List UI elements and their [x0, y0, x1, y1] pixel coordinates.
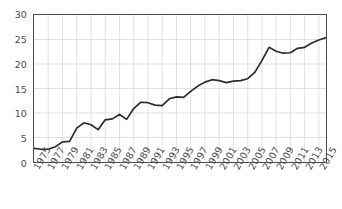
line-chart: 051015202530 197519771979198119831985198…	[0, 0, 342, 209]
y-tick-label: 20	[0, 58, 27, 69]
y-tick-label: 15	[0, 83, 27, 94]
y-tick-label: 5	[0, 133, 27, 144]
plot-area	[33, 14, 327, 163]
y-tick-label: 25	[0, 33, 27, 44]
data-series-line	[34, 15, 326, 162]
y-tick-label: 10	[0, 108, 27, 119]
y-tick-label: 30	[0, 9, 27, 20]
x-axis-tick-labels: 1975197719791981198319851987198919911993…	[33, 166, 327, 209]
y-tick-label: 0	[0, 158, 27, 169]
